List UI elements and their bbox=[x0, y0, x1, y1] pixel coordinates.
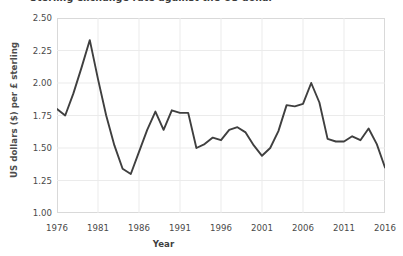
x-tick-label: 1991 bbox=[160, 223, 200, 233]
x-axis-label: Year bbox=[0, 239, 403, 249]
x-tick-label: 2001 bbox=[242, 223, 282, 233]
y-tick-label: 2.50 bbox=[18, 13, 52, 23]
x-tick-label: 1976 bbox=[37, 223, 77, 233]
x-axis-label-text: Year bbox=[153, 239, 174, 249]
x-tick-label: 2011 bbox=[324, 223, 364, 233]
chart-title: Sterling exchange rate against the US do… bbox=[30, 0, 370, 3]
x-tick-label: 1996 bbox=[201, 223, 241, 233]
x-tick-label: 1981 bbox=[78, 223, 118, 233]
x-tick-label: 1986 bbox=[119, 223, 159, 233]
data-line-series bbox=[57, 18, 385, 213]
chart-container: Sterling exchange rate against the US do… bbox=[0, 0, 403, 256]
y-tick-label: 1.00 bbox=[18, 208, 52, 218]
y-tick-label: 1.75 bbox=[18, 111, 52, 121]
x-tick-label: 2016 bbox=[365, 223, 403, 233]
y-tick-label: 2.00 bbox=[18, 78, 52, 88]
x-tick-label: 2006 bbox=[283, 223, 323, 233]
y-tick-label: 1.25 bbox=[18, 176, 52, 186]
y-tick-label: 1.50 bbox=[18, 143, 52, 153]
y-tick-label: 2.25 bbox=[18, 46, 52, 56]
